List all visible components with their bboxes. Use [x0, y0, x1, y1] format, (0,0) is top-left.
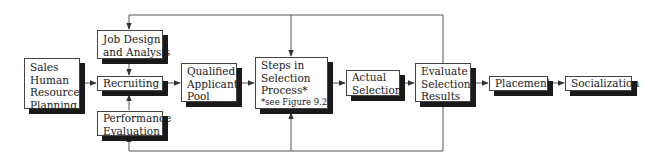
- node-label: and Analysis: [103, 46, 157, 59]
- node-performance-evaluation: Performance Evaluation: [97, 111, 163, 136]
- node-label: Selection: [352, 84, 394, 97]
- node-job-design-analysis: Job Design and Analysis: [97, 30, 163, 59]
- node-label: Actual: [352, 71, 394, 84]
- node-recruiting: Recruiting: [97, 76, 163, 91]
- node-sales-hr-planning: Sales Human Resource Planning: [24, 58, 80, 109]
- node-placement: Placement: [489, 76, 548, 91]
- node-label: Selection: [261, 72, 322, 85]
- node-label: Process*: [261, 84, 322, 97]
- node-label: Results: [421, 90, 465, 103]
- node-label: Sales: [30, 61, 74, 74]
- node-label: Selection: [421, 78, 465, 91]
- node-label: Resource: [30, 86, 74, 99]
- node-socialization: Socialization: [565, 76, 632, 91]
- node-label: Pool: [187, 90, 231, 103]
- feedback-bottom-to-performance: [129, 106, 443, 151]
- node-qualified-applicant-pool: Qualified Applicant Pool: [181, 63, 237, 102]
- node-label: Evaluate: [421, 65, 465, 78]
- node-steps-in-selection-process: Steps in Selection Process* *see Figure …: [255, 57, 328, 109]
- node-label: Qualified: [187, 65, 231, 78]
- figure-reference-note: *see Figure 9.2: [261, 97, 322, 108]
- node-label: Recruiting: [103, 77, 159, 90]
- node-label: Socialization: [571, 77, 639, 90]
- node-label: Human: [30, 74, 74, 87]
- node-label: Placement: [495, 77, 551, 90]
- node-label: Planning: [30, 99, 74, 112]
- hr-selection-flow-diagram: Sales Human Resource Planning Job Design…: [0, 0, 657, 168]
- node-actual-selection: Actual Selection: [346, 70, 400, 96]
- node-label: Job Design: [103, 33, 157, 46]
- node-label: Performance: [103, 112, 157, 125]
- node-label: Steps in: [261, 59, 322, 72]
- feedback-top-to-jobdesign: [129, 15, 443, 63]
- node-label: Evaluation: [103, 125, 157, 138]
- node-evaluate-selection-results: Evaluate Selection Results: [415, 63, 471, 102]
- node-label: Applicant: [187, 78, 231, 91]
